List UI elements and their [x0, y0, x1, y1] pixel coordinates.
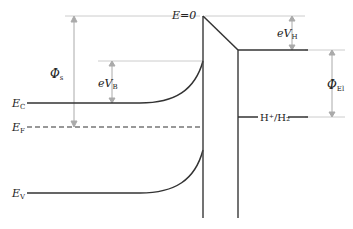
ev-label: EV: [11, 187, 26, 201]
phi-el-label: ΦEl: [327, 78, 345, 93]
helmholtz-drop: [203, 16, 238, 50]
ef-label: EF: [11, 121, 25, 135]
ec-label: EC: [11, 97, 25, 111]
phi-s-arrow: [71, 16, 77, 127]
valence-band: [27, 150, 203, 193]
phi-s-label: Φs: [50, 67, 64, 82]
evh-label: eVH: [277, 27, 298, 41]
band-diagram: E=0 Φs eVB eVH ΦEl EC EF EV H⁺/H₂: [0, 0, 353, 229]
evb-label: eVB: [98, 77, 118, 91]
band-diagram-svg: E=0 Φs eVB eVH ΦEl EC EF EV H⁺/H₂: [0, 0, 353, 229]
redox-couple-label: H⁺/H₂: [260, 112, 290, 123]
vacuum-zero-label: E=0: [171, 9, 196, 22]
